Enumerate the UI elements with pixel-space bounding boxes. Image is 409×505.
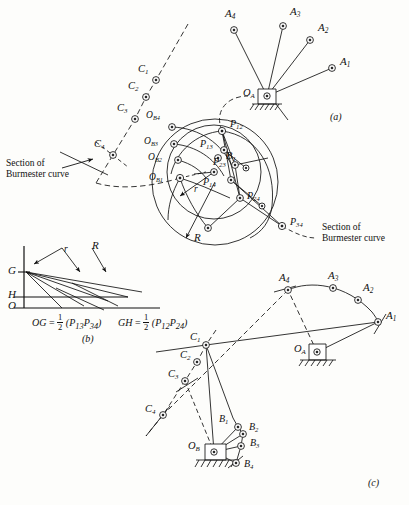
- burmester-diagram: [0, 0, 409, 505]
- label-b4-c: B4: [244, 459, 253, 470]
- label-O-b: O: [8, 300, 16, 311]
- circle-arc-right: [222, 131, 273, 238]
- link-a1-c1: [206, 322, 378, 345]
- label-c2-a: C2: [128, 81, 138, 93]
- label-p13-a: P13: [200, 139, 213, 150]
- label-a3-c: A3: [328, 270, 338, 283]
- link-c1-b: [206, 345, 214, 452]
- label-ob1-a: OB1: [149, 173, 163, 183]
- label-a4-c: A4: [279, 272, 289, 285]
- label-a3-a: A3: [290, 6, 300, 19]
- label-a1-a: A1: [340, 56, 350, 69]
- label-b1-a: B1: [226, 151, 236, 163]
- label-r-b: r: [64, 245, 68, 255]
- formula-og: OG = 12 (P13P34): [32, 313, 101, 331]
- label-p24-a: P24: [247, 191, 260, 202]
- a-links: [234, 26, 332, 96]
- section-label-right: Section of Burmester curve: [322, 222, 385, 244]
- caption-c: (c): [368, 478, 379, 488]
- arrow-R-b: [92, 248, 106, 272]
- subfigure-b: [14, 246, 160, 310]
- label-R-a: R: [194, 232, 201, 243]
- nodes-a: [110, 23, 336, 232]
- ray-fan-b: [26, 272, 142, 308]
- label-ob3-a: OB3: [144, 137, 158, 147]
- label-c3-a: C3: [117, 103, 127, 115]
- burmester-curve-left: [96, 24, 188, 183]
- arrow-r-b2: [34, 248, 62, 264]
- label-p34-a: P34: [290, 217, 303, 228]
- label-c4-c: C4: [145, 404, 155, 416]
- figure-page: A1 A2 A3 A4 OA C1 C2 C3 C4 OB4 OB3 OB2 O…: [0, 0, 409, 505]
- label-r-a: r: [194, 185, 198, 195]
- label-p12-a: P12: [230, 119, 243, 130]
- label-a2-c: A2: [363, 282, 373, 295]
- label-oa-a: OA: [243, 88, 255, 100]
- formula-gh: GH = 12 (P12P24): [118, 313, 187, 331]
- dashed-oa-a4: [288, 290, 317, 352]
- label-ob-c: OB: [188, 441, 200, 453]
- label-b1-c: B1: [219, 414, 228, 425]
- subfigure-a: [60, 23, 335, 245]
- label-b3-c: B3: [250, 438, 259, 449]
- label-ob2-a: OB2: [148, 153, 162, 163]
- label-G-b: G: [8, 265, 16, 276]
- label-b2-c: B2: [249, 422, 258, 433]
- label-c4-a: C4: [94, 139, 104, 151]
- label-oa-c: OA: [294, 344, 306, 356]
- label-a2-a: A2: [318, 22, 328, 35]
- label-a4-a: A4: [225, 8, 235, 21]
- label-p23-a: P23: [213, 157, 226, 168]
- label-p14-a: P14: [203, 177, 216, 188]
- caption-b: (b): [82, 334, 94, 344]
- label-ob4-a: OB4: [146, 111, 160, 121]
- label-c1-a: C1: [138, 64, 148, 76]
- label-a1-c: A1: [386, 310, 396, 323]
- oa-tick-a: [276, 104, 288, 120]
- caption-a: (a): [330, 112, 342, 122]
- pivot-ob-c: [195, 444, 238, 467]
- label-c1-c: C1: [190, 332, 200, 344]
- section-label-left: Section of Burmester curve: [6, 158, 69, 180]
- label-R-b: R: [92, 240, 99, 251]
- label-c2-c: C2: [180, 350, 190, 362]
- label-c3-c: C3: [168, 369, 178, 381]
